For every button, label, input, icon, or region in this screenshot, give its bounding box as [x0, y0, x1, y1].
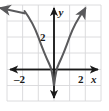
x-tick-label-negative-2: –2	[13, 73, 26, 85]
x-tick-label-2: 2	[78, 73, 84, 85]
graph-svg: 2 –2 2 y x	[0, 0, 109, 111]
y-tick-label-2: 2	[40, 31, 46, 43]
coordinate-plane-figure: 2 –2 2 y x	[0, 0, 109, 111]
y-axis-label: y	[57, 6, 64, 18]
x-axis-label: x	[90, 73, 97, 85]
